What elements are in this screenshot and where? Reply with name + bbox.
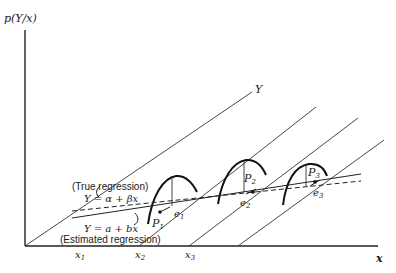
estimated-regression-equation: Y = a + bx (84, 223, 138, 234)
true-regression-caption: (True regression) (72, 181, 148, 192)
depth-axis-label: Y (255, 83, 264, 96)
tick-x3: x3 (185, 249, 196, 262)
regression-diagram: p(Y/x) x Y x1 x2 x3 P1 P2 P3 e1 e2 e3 (T… (0, 0, 396, 273)
label-p1: P1 (151, 217, 164, 231)
label-p2: P2 (243, 172, 256, 186)
x-axis-label: x (375, 252, 383, 265)
label-e2: e2 (240, 197, 251, 210)
error-arrow-e1 (160, 207, 170, 212)
depth-line-x4 (238, 140, 384, 246)
y-axis-label: p(Y/x) (4, 12, 37, 25)
label-p3: P3 (307, 166, 320, 180)
estimated-regression-caption: (Estimated regression) (60, 234, 161, 245)
tick-x1: x1 (75, 249, 85, 262)
tick-x2: x2 (135, 249, 146, 262)
label-e1: e1 (174, 208, 184, 221)
label-e3: e3 (313, 187, 324, 200)
depth-line-x3 (189, 118, 358, 246)
true-regression-equation: Y = α + βx (84, 193, 139, 204)
depth-axis (25, 92, 252, 246)
